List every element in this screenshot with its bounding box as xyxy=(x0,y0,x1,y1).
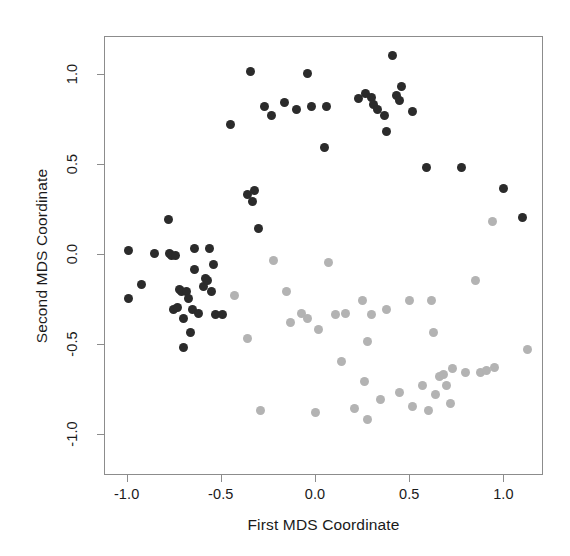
data-point xyxy=(397,82,406,91)
x-tick-mark xyxy=(315,475,316,482)
y-tick-label: 1.0 xyxy=(64,54,80,94)
data-point xyxy=(194,309,203,318)
data-point xyxy=(405,296,414,305)
data-point xyxy=(360,377,369,386)
data-point xyxy=(314,325,323,334)
data-point xyxy=(363,415,372,424)
x-tick-mark xyxy=(409,475,410,482)
data-point xyxy=(388,51,397,60)
data-point xyxy=(307,102,316,111)
y-tick-mark xyxy=(97,434,104,435)
data-point xyxy=(442,381,451,390)
data-point xyxy=(324,258,333,267)
data-point xyxy=(380,111,389,120)
data-point xyxy=(207,287,216,296)
data-point xyxy=(337,357,346,366)
data-point xyxy=(490,363,499,372)
data-point xyxy=(422,163,431,172)
data-point xyxy=(124,246,133,255)
x-tick-label: -1.0 xyxy=(114,486,139,502)
data-point xyxy=(320,143,329,152)
data-point xyxy=(431,390,440,399)
data-point xyxy=(179,314,188,323)
y-tick-mark xyxy=(97,74,104,75)
data-point xyxy=(488,217,497,226)
data-point xyxy=(303,314,312,323)
data-point xyxy=(322,102,331,111)
x-tick-mark xyxy=(127,475,128,482)
data-point xyxy=(254,224,263,233)
data-point xyxy=(226,120,235,129)
data-point xyxy=(205,244,214,253)
y-tick-label: 0.0 xyxy=(64,234,80,274)
data-point xyxy=(418,381,427,390)
x-tick-label: 0.5 xyxy=(399,486,419,502)
y-tick-mark xyxy=(97,344,104,345)
data-point xyxy=(311,408,320,417)
data-point xyxy=(209,260,218,269)
y-tick-label: -0.5 xyxy=(64,324,80,364)
data-point xyxy=(518,213,527,222)
data-point xyxy=(350,404,359,413)
data-point xyxy=(471,276,480,285)
x-tick-mark xyxy=(503,475,504,482)
x-tick-label: -0.5 xyxy=(208,486,233,502)
y-axis-title: Second MDS Coordinate xyxy=(33,168,51,343)
data-point xyxy=(164,215,173,224)
data-point xyxy=(424,406,433,415)
data-point xyxy=(523,345,532,354)
data-point xyxy=(439,370,448,379)
data-point xyxy=(267,111,276,120)
data-point xyxy=(382,305,391,314)
x-tick-label: 0.0 xyxy=(305,486,325,502)
data-point xyxy=(292,105,301,114)
data-point xyxy=(190,244,199,253)
data-point xyxy=(382,127,391,136)
scatter-plot-figure: -1.0-0.50.00.51.0-1.0-0.50.00.51.0 First… xyxy=(0,0,570,556)
data-point xyxy=(179,343,188,352)
y-tick-mark xyxy=(97,254,104,255)
x-axis-title: First MDS Coordinate xyxy=(247,516,399,534)
data-point xyxy=(260,102,269,111)
y-tick-label: 0.5 xyxy=(64,144,80,184)
x-tick-label: 1.0 xyxy=(493,486,513,502)
data-point xyxy=(243,334,252,343)
data-point xyxy=(256,406,265,415)
data-point xyxy=(446,399,455,408)
data-point xyxy=(230,291,239,300)
data-point xyxy=(137,280,146,289)
x-tick-mark xyxy=(221,475,222,482)
data-point xyxy=(286,318,295,327)
data-point xyxy=(341,309,350,318)
y-tick-label: -1.0 xyxy=(64,414,80,454)
data-point xyxy=(358,296,367,305)
data-point xyxy=(395,388,404,397)
y-tick-mark xyxy=(97,164,104,165)
